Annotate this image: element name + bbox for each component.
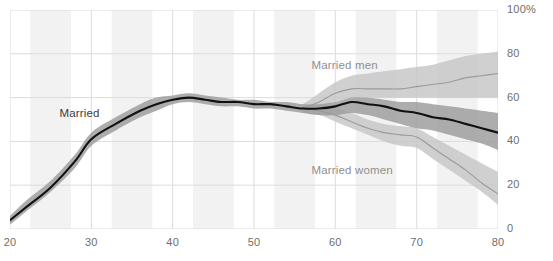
annotation-married: Married	[59, 107, 99, 119]
x-tick-label-70: 70	[397, 236, 437, 248]
x-tick-label-60: 60	[315, 236, 355, 248]
annotation-married-women: Married women	[312, 164, 393, 176]
x-tick-label-30: 30	[71, 236, 111, 248]
chart-container: 020406080100% 20304050607080 MarriedMarr…	[0, 0, 553, 261]
x-tick-label-20: 20	[0, 236, 30, 248]
y-tick-label-100pct: 100%	[507, 3, 536, 15]
cropped-title-sliver	[0, 0, 553, 6]
y-tick-label-0: 0	[507, 222, 513, 234]
background-band-3	[274, 10, 315, 229]
x-tick-label-40: 40	[153, 236, 193, 248]
y-tick-label-80: 80	[507, 47, 520, 59]
x-tick-label-50: 50	[234, 236, 274, 248]
plot-area	[10, 10, 498, 229]
y-tick-label-20: 20	[507, 178, 520, 190]
y-tick-label-60: 60	[507, 91, 520, 103]
x-tick-label-80: 80	[478, 236, 518, 248]
background-band-2	[193, 10, 234, 229]
chart-svg	[10, 10, 498, 229]
annotation-married-men: Married men	[312, 59, 378, 71]
y-tick-label-40: 40	[507, 134, 520, 146]
